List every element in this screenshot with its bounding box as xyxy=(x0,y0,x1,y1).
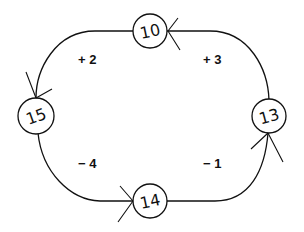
node-left: 15 xyxy=(18,98,54,134)
edge-label-bottom-right: − 1 xyxy=(203,156,221,171)
cycle-diagram: 10 13 14 15 xyxy=(0,0,304,232)
edge-label-top-left: + 2 xyxy=(78,52,96,67)
node-right: 13 xyxy=(252,99,286,133)
node-top: 10 xyxy=(133,14,167,48)
edge-label-top-right: + 3 xyxy=(203,52,221,67)
node-bottom: 14 xyxy=(133,184,167,218)
arrow-into-top-icon xyxy=(168,18,180,50)
edge-label-bottom-left: − 4 xyxy=(78,156,96,171)
loop-edges xyxy=(36,31,269,201)
arrow-into-bottom-icon xyxy=(118,186,133,222)
